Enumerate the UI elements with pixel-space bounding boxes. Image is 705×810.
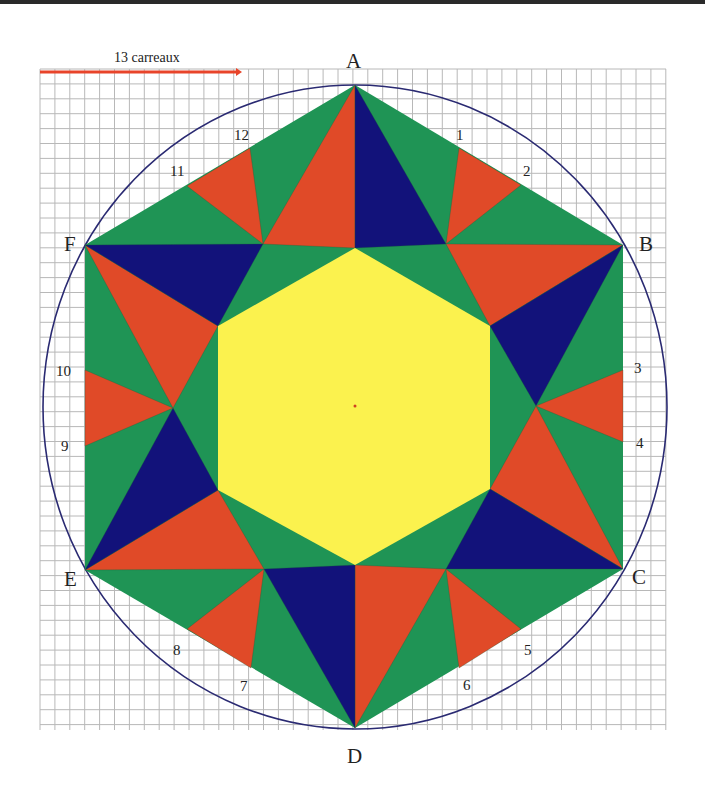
point-label-11: 11 <box>170 163 184 179</box>
point-label-6: 6 <box>463 677 471 693</box>
point-label-12: 12 <box>234 127 249 143</box>
point-label-3: 3 <box>634 360 642 376</box>
vertex-label-D: D <box>347 744 362 768</box>
hexagon-star-diagram: 13 carreaux A B C D E F <box>0 0 705 810</box>
point-label-5: 5 <box>524 642 532 658</box>
point-label-9: 9 <box>61 438 69 454</box>
point-label-8: 8 <box>173 642 181 658</box>
scale-label: 13 carreaux <box>114 50 180 65</box>
point-label-1: 1 <box>456 127 464 143</box>
point-label-7: 7 <box>240 678 248 694</box>
scale-indicator: 13 carreaux <box>40 50 242 76</box>
vertex-label-F: F <box>64 232 76 256</box>
vertex-label-E: E <box>64 567 77 591</box>
point-label-4: 4 <box>636 435 644 451</box>
center-point <box>354 405 357 408</box>
vertex-label-A: A <box>346 49 362 73</box>
point-label-2: 2 <box>523 163 531 179</box>
vertex-label-C: C <box>632 565 646 589</box>
point-label-10: 10 <box>56 363 71 379</box>
vertex-label-B: B <box>639 232 653 256</box>
